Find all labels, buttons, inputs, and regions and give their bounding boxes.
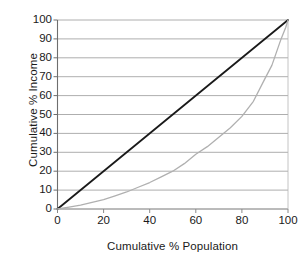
lorenz-curve-chart: Cumulative % Income Cumulative % Populat… (0, 0, 307, 264)
plot-area (0, 0, 307, 264)
